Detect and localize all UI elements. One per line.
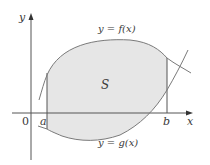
bound-a-label: a xyxy=(40,115,47,128)
area-between-curves-diagram: y x 0 a b S y = f(x) y = g(x) xyxy=(0,0,210,165)
bound-b-label: b xyxy=(163,115,170,128)
curve-g-label: y = g(x) xyxy=(97,137,138,148)
y-axis-label: y xyxy=(18,11,26,24)
y-axis-arrow-icon xyxy=(29,13,34,20)
origin-label: 0 xyxy=(22,115,29,128)
x-axis-label: x xyxy=(187,115,194,128)
curve-f-label: y = f(x) xyxy=(97,23,136,34)
region-s-label: S xyxy=(101,78,109,92)
diagram-canvas: y x 0 a b S y = f(x) y = g(x) xyxy=(0,0,210,165)
